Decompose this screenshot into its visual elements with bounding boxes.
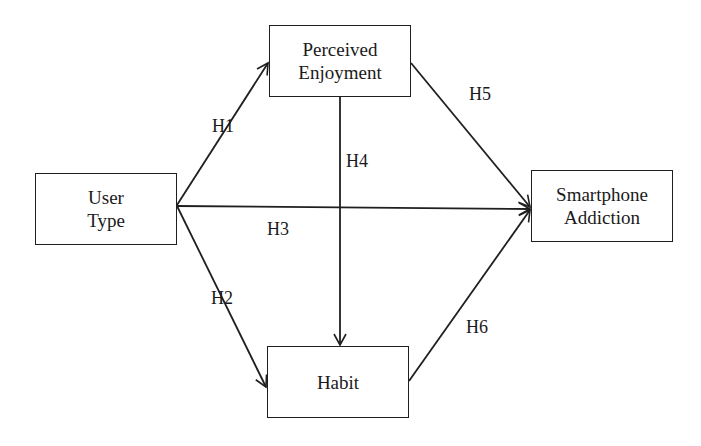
edge-label-h5: H5 <box>469 84 491 104</box>
edge-h3-arrow <box>177 206 530 209</box>
edge-h6-arrow <box>409 210 530 381</box>
node-user-type: User Type <box>35 173 177 245</box>
node-habit: Habit <box>267 346 409 418</box>
edge-label-h1: H1 <box>212 116 234 136</box>
node-smartphone-addiction: Smartphone Addiction <box>531 170 673 242</box>
node-habit-line1: Habit <box>317 371 359 394</box>
edge-label-h3: H3 <box>267 219 289 239</box>
node-perceived-enjoyment-line2: Enjoyment <box>298 61 381 84</box>
node-user-type-line1: User <box>88 186 124 209</box>
node-perceived-enjoyment-line1: Perceived <box>303 38 378 61</box>
node-smartphone-addiction-line1: Smartphone <box>556 183 648 206</box>
edge-label-h4: H4 <box>346 151 368 171</box>
node-perceived-enjoyment: Perceived Enjoyment <box>269 25 411 97</box>
node-smartphone-addiction-line2: Addiction <box>564 206 640 229</box>
edge-label-h2: H2 <box>211 288 233 308</box>
edge-label-h6: H6 <box>466 317 488 337</box>
node-user-type-line2: Type <box>87 209 125 232</box>
